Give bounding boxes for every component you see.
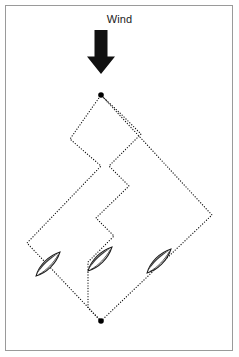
boat-middle xyxy=(85,244,115,274)
sailing-tacking-diagram: Wind xyxy=(0,0,239,357)
route-left-path xyxy=(27,95,101,321)
windward-mark-dot xyxy=(98,92,104,98)
leeward-mark-dot xyxy=(98,318,104,324)
boat-right xyxy=(144,246,174,276)
boat-left xyxy=(33,249,63,279)
route-right-path xyxy=(101,95,212,321)
diagram-canvas xyxy=(0,0,239,357)
wind-arrow-icon xyxy=(87,30,115,74)
wind-label: Wind xyxy=(0,13,239,26)
